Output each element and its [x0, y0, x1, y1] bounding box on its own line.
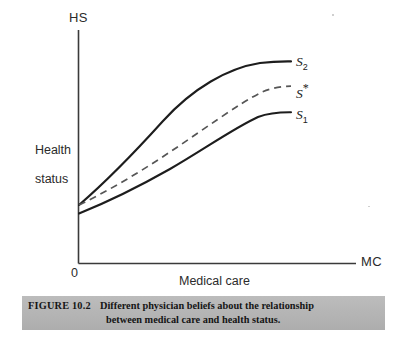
curve-s-star	[79, 86, 291, 205]
curve-label-s1: S1	[296, 107, 308, 125]
scan-speck-icon	[368, 206, 370, 207]
curve-label-s1-subscript: 1	[303, 115, 308, 125]
scan-speck-icon	[332, 14, 334, 16]
curve-label-s-star-main: S	[296, 86, 303, 101]
figure-container: HS MC Health status Medical care 0 S2 S*…	[0, 0, 402, 340]
y-axis-title: Health status	[21, 129, 71, 201]
curve-label-s2: S2	[296, 54, 308, 72]
curve-s2	[79, 61, 291, 205]
curve-s1	[79, 112, 291, 213]
x-axis-symbol-label: MC	[361, 255, 382, 270]
origin-label: 0	[71, 266, 78, 280]
y-axis-symbol-label: HS	[69, 11, 88, 26]
figure-caption-bar: FIGURE 10.2Different physician beliefs a…	[22, 296, 385, 330]
figure-caption-sentence-part2: between medical care and health status.	[106, 313, 380, 327]
figure-number-label: FIGURE 10.2	[28, 299, 100, 313]
figure-caption-sentence-part1: Different physician beliefs about the re…	[100, 300, 314, 311]
curve-label-s2-main: S	[296, 54, 303, 69]
x-axis-title: Medical care	[179, 274, 250, 288]
curve-label-s1-main: S	[296, 107, 303, 122]
y-axis-title-line1: Health	[35, 143, 71, 157]
figure-caption-line1: FIGURE 10.2Different physician beliefs a…	[28, 299, 380, 313]
curve-label-s-star: S*	[296, 81, 309, 102]
curve-label-s-star-asterisk: *	[303, 81, 309, 95]
curve-label-s2-subscript: 2	[303, 62, 308, 72]
y-axis-title-line2: status	[35, 172, 68, 186]
figure-caption-text: FIGURE 10.2Different physician beliefs a…	[28, 299, 380, 327]
